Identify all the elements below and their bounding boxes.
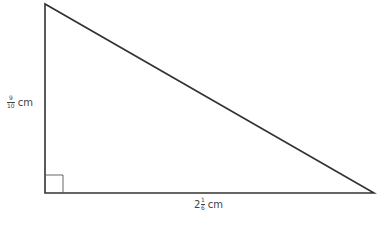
base-fraction: 1 6 xyxy=(201,197,205,211)
right-angle-marker xyxy=(45,175,63,193)
base-whole: 2 xyxy=(194,199,200,210)
height-fraction: 9 10 xyxy=(7,95,15,109)
height-denominator: 10 xyxy=(7,103,15,109)
right-triangle xyxy=(45,4,374,193)
base-unit: cm xyxy=(208,199,223,210)
height-unit: cm xyxy=(18,97,33,108)
base-numerator: 1 xyxy=(201,197,205,203)
triangle-figure xyxy=(0,0,387,229)
height-numerator: 9 xyxy=(9,95,13,101)
base-label: 2 1 6 cm xyxy=(194,197,223,211)
base-denominator: 6 xyxy=(201,205,205,211)
height-label: 9 10 cm xyxy=(7,95,33,109)
